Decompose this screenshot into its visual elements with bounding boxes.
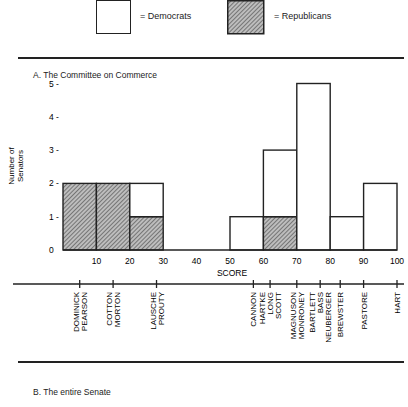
senator-label: HART: [393, 292, 402, 314]
bar-democrats: [364, 183, 397, 250]
senator-label: PASTORE: [360, 292, 369, 330]
x-axis-label: SCORE: [217, 268, 248, 278]
senator-label: PEARSON: [80, 292, 89, 331]
bar-republicans: [263, 217, 296, 250]
x-tick-label: 30: [158, 256, 168, 266]
bar-democrats: [230, 217, 263, 250]
x-tick-label: 70: [292, 256, 302, 266]
x-tick-label: 50: [225, 256, 235, 266]
senator-label: SCOTT: [274, 292, 283, 319]
x-tick-label: 100: [390, 256, 404, 266]
bar-democrats: [130, 183, 163, 216]
histogram-chart: Number ofSenators01 -2 -3 -4 -5 -1020304…: [0, 0, 408, 362]
y-tick-label: 3 -: [49, 145, 59, 155]
bar-republicans: [63, 183, 96, 250]
x-tick-label: 80: [325, 256, 335, 266]
x-tick-label: 20: [125, 256, 135, 266]
bar-republicans: [96, 183, 129, 250]
y-tick-label: 2 -: [49, 178, 59, 188]
senator-label: MORTON: [113, 292, 122, 327]
senator-label: MONRONEY: [297, 291, 306, 339]
bar-republicans: [130, 217, 163, 250]
y-tick-label: 4 -: [49, 112, 59, 122]
x-tick-label: 40: [192, 256, 202, 266]
senator-label: BREWSTER: [336, 292, 345, 338]
bar-democrats: [330, 217, 363, 250]
section-b-title: B. The entire Senate: [33, 387, 111, 397]
y-axis-label: Number ofSenators: [7, 147, 25, 185]
x-tick-label: 90: [359, 256, 369, 266]
divider-bottom: [18, 361, 404, 363]
bar-democrats: [263, 150, 296, 217]
y-tick-label: 0: [49, 245, 54, 255]
x-tick-label: 60: [259, 256, 269, 266]
senator-label: CANNON: [249, 292, 258, 327]
y-tick-label: 1 -: [49, 212, 59, 222]
senator-label: NEUBERGER: [324, 292, 333, 343]
senator-label: PROUTY: [157, 291, 166, 325]
y-tick-label: 5 -: [49, 79, 59, 89]
bar-democrats: [297, 84, 330, 251]
x-tick-label: 10: [92, 256, 102, 266]
